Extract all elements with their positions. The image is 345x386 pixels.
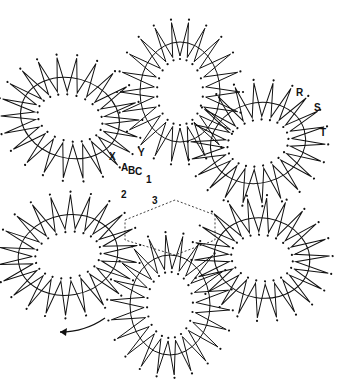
pin-dot: [222, 199, 225, 202]
pin-dot: [124, 356, 126, 358]
center-dashed-outline: [125, 200, 215, 255]
pin-dot: [277, 157, 280, 160]
pin-dot: [230, 253, 233, 256]
zigzag-spikes: [110, 235, 230, 375]
pin-dot: [286, 144, 289, 147]
pin-dot: [114, 339, 116, 341]
pin-dot: [196, 113, 198, 115]
pin-dot: [327, 237, 330, 240]
pin-label-r: R: [296, 88, 303, 98]
pin-dot: [119, 112, 121, 114]
zigzag-spikes: [0, 184, 147, 326]
pin-dot: [47, 237, 50, 240]
pin-dot: [87, 270, 90, 273]
pin-dot: [126, 51, 128, 53]
pin-label-s: S: [314, 103, 321, 113]
pin-dot: [60, 277, 63, 280]
pin-dot: [10, 149, 13, 152]
pin-dot: [101, 122, 104, 125]
pin-dot: [161, 335, 163, 337]
pin-dot: [78, 274, 81, 277]
pin-dot: [64, 317, 67, 320]
pin-dot: [24, 164, 27, 167]
pin-dot: [162, 69, 164, 71]
pin-dot: [206, 189, 209, 192]
lace-pricking-diagram: [0, 0, 345, 386]
pin-dot: [55, 233, 58, 236]
direction-arrow-icon: [60, 318, 105, 336]
pin-dot: [202, 96, 204, 98]
pin-dot: [164, 272, 166, 274]
pin-dot: [291, 254, 294, 257]
pin-dot: [123, 212, 126, 215]
pin-dot: [191, 311, 193, 313]
pin-dot: [35, 262, 38, 265]
pin-dot: [128, 84, 131, 87]
pin-dot: [179, 124, 181, 126]
ground-ring: [130, 255, 210, 355]
pin-dot: [61, 179, 64, 182]
pin-dot: [90, 193, 93, 196]
pin-dot: [25, 308, 28, 311]
pin-dot: [51, 276, 54, 279]
pin-dot: [292, 260, 295, 263]
petal-group: [0, 19, 344, 379]
pin-dot: [188, 19, 190, 21]
pin-dot: [110, 278, 112, 280]
pin-dot: [232, 309, 234, 311]
pin-dot: [196, 69, 198, 71]
pin-dot: [191, 372, 193, 374]
pin-dot: [204, 293, 207, 296]
pin-dot: [231, 132, 234, 135]
pin-dot: [191, 63, 193, 65]
pin-dot: [158, 77, 160, 79]
pin-dot: [245, 165, 248, 168]
pin-dot: [151, 324, 153, 326]
pin-dot: [10, 296, 13, 299]
pin-dot: [307, 95, 310, 98]
pin-dot: [36, 249, 39, 252]
pin-dot: [266, 234, 269, 237]
pin-dot: [44, 315, 47, 318]
pin-dot: [75, 95, 78, 98]
pin-dot: [264, 280, 267, 283]
pin-dot: [153, 157, 155, 159]
pin-dot: [146, 306, 148, 308]
pin-dot: [88, 138, 91, 141]
pin-dot: [170, 19, 172, 21]
pin-dot: [247, 276, 250, 279]
pin-dot: [262, 164, 265, 167]
pin-dot: [255, 279, 258, 282]
pin-dot: [13, 213, 16, 216]
pin-label-c: C: [135, 167, 142, 177]
pin-dot: [6, 81, 9, 84]
pin-dot: [80, 140, 83, 143]
pin-dot: [82, 232, 85, 235]
pin-dot: [62, 139, 65, 142]
pin-dot: [214, 252, 216, 254]
pin-label-3: 3: [152, 196, 158, 206]
pin-dot: [272, 279, 275, 282]
pin-dot: [0, 133, 3, 136]
pin-dot: [252, 79, 255, 82]
pin-dot: [36, 111, 39, 114]
zigzag-spikes: [120, 23, 240, 162]
pin-dot: [331, 255, 334, 258]
pin-dot: [36, 58, 39, 61]
pin-dot: [2, 228, 5, 231]
pin-dot: [276, 121, 279, 124]
pin-dot: [49, 96, 52, 99]
pin-dot: [57, 93, 60, 96]
pin-dot: [119, 70, 121, 72]
pin-dot: [258, 233, 261, 236]
pin-dot: [172, 59, 174, 61]
petal-upper-right: [172, 63, 344, 223]
pin-dot: [167, 119, 169, 121]
pin-dot: [141, 119, 144, 122]
pin-dot: [224, 269, 226, 271]
pin-dot: [270, 161, 273, 164]
pin-dot: [66, 93, 69, 96]
pin-dot: [147, 315, 149, 317]
pin-dot: [191, 119, 193, 121]
pin-dot: [269, 119, 272, 122]
